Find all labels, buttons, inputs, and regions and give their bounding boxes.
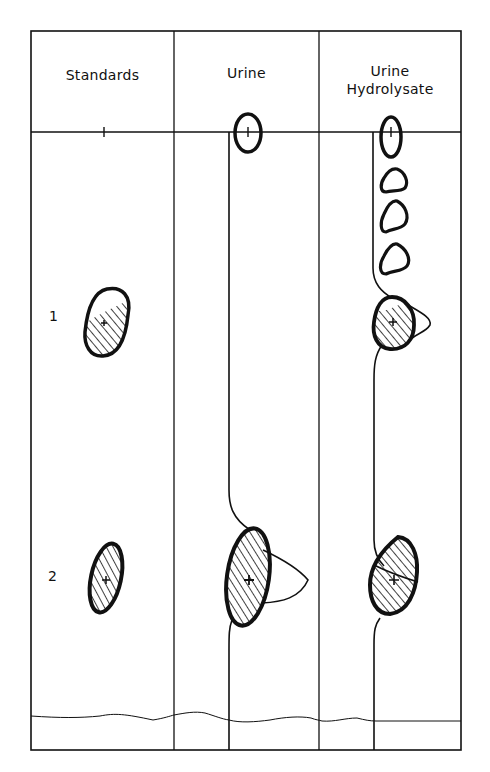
header-standards-text: Standards <box>31 66 174 84</box>
chromatogram-diagram <box>0 0 490 772</box>
hydrolysate-drop-1 <box>381 169 406 192</box>
urine-lane <box>220 114 308 750</box>
header-hydrolysate-line2: Hydrolysate <box>319 80 461 98</box>
hydrolysate-drop-2 <box>381 201 407 232</box>
solvent-front <box>31 712 461 722</box>
spot-label-2: 2 <box>48 568 57 584</box>
outer-frame <box>31 31 461 750</box>
spot-label-1: 1 <box>49 308 58 324</box>
hydrolysate-lane <box>370 117 430 750</box>
column-header-hydrolysate: Urine Hydrolysate <box>319 62 461 98</box>
standard-spot-1 <box>82 288 129 356</box>
column-header-urine: Urine <box>174 64 319 82</box>
header-hydrolysate-line1: Urine <box>319 62 461 80</box>
header-urine-text: Urine <box>174 64 319 82</box>
hydrolysate-drop-3 <box>380 244 408 274</box>
column-header-standards: Standards <box>31 66 174 84</box>
standard-spot-2 <box>84 541 128 616</box>
